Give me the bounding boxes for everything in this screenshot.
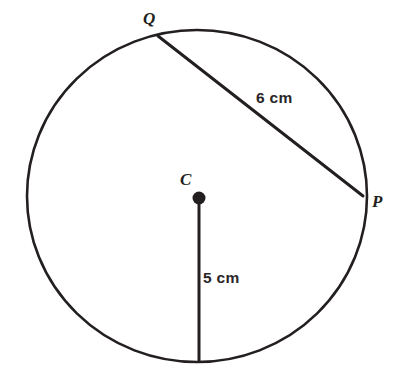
- center-point-dot: [193, 192, 206, 205]
- point-label-p: P: [372, 193, 383, 210]
- point-label-c: C: [180, 171, 192, 188]
- circle-diagram-canvas: [0, 0, 402, 384]
- chord-measure-label: 6 cm: [256, 90, 293, 106]
- point-label-q: Q: [143, 10, 155, 27]
- geometry-figure: Q P C 6 cm 5 cm: [0, 0, 402, 384]
- radius-measure-label: 5 cm: [203, 270, 240, 286]
